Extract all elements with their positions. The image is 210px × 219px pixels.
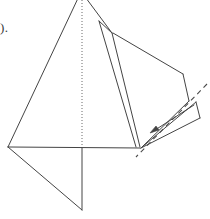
line-drawing-illustration bbox=[0, 0, 210, 219]
sliver-right-edge bbox=[112, 33, 140, 147]
fold-direction-arrow bbox=[150, 105, 194, 133]
lower-flap-diagonal-edge bbox=[8, 147, 82, 210]
wedge-tip-edge bbox=[196, 102, 200, 118]
right-panel-right-edge bbox=[183, 74, 189, 101]
fold-arrow-shaft bbox=[152, 105, 194, 132]
main-triangle-left-edge bbox=[8, 0, 80, 147]
sliver-left-edge bbox=[99, 21, 136, 147]
dashed-fold-line bbox=[136, 84, 207, 157]
right-panel-bottom-edge bbox=[141, 101, 189, 148]
horizontal-baseline bbox=[8, 147, 140, 148]
main-triangle-right-edge-upper bbox=[83, 0, 112, 33]
figure-container: ). bbox=[0, 0, 210, 219]
drawing-strokes bbox=[8, 0, 200, 210]
right-panel-top-edge bbox=[113, 33, 183, 74]
